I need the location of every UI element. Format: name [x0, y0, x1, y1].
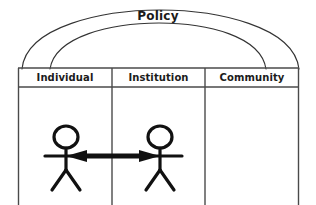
column-header-individual: Individual	[18, 70, 112, 86]
person-leg-left	[52, 170, 66, 190]
domain-table	[18, 68, 299, 205]
person-leg-right	[160, 170, 174, 190]
policy-label: Policy	[0, 9, 316, 23]
bidirectional-arrow	[66, 150, 160, 162]
person-head-icon	[54, 126, 78, 148]
column-header-community: Community	[205, 70, 299, 86]
arrow-head-left-icon	[66, 150, 87, 162]
diagram-canvas	[0, 0, 316, 205]
arrow-shaft	[80, 154, 146, 159]
arrow-head-right-icon	[139, 150, 160, 162]
policy-inner-arc	[50, 23, 266, 69]
person-leg-right	[66, 170, 80, 190]
policy-ecology-diagram: Policy Individual Institution Community	[0, 0, 316, 205]
column-header-institution: Institution	[112, 70, 205, 86]
person-leg-left	[146, 170, 160, 190]
person-head-icon	[148, 126, 172, 148]
